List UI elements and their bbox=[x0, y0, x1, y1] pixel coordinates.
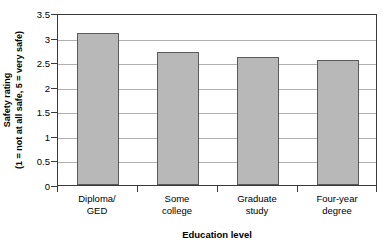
x-axis-tick-marks bbox=[57, 186, 377, 192]
bar-chart-figure: Safety rating (1 = not at all safe, 5 = … bbox=[0, 0, 387, 249]
y-axis-tick-label: 3 bbox=[45, 33, 50, 44]
y-axis-tick-label: 1.5 bbox=[37, 107, 50, 118]
bar bbox=[77, 33, 119, 185]
plot-area bbox=[57, 14, 377, 186]
bar bbox=[317, 60, 359, 185]
x-axis-category-label: Diploma/GED bbox=[57, 193, 137, 217]
x-axis-tick-mark bbox=[217, 186, 218, 192]
y-axis-title: Safety rating (1 = not at all safe, 5 = … bbox=[0, 14, 26, 186]
x-axis-category-labels: Diploma/GEDSomecollegeGraduatestudyFour-… bbox=[57, 193, 377, 227]
x-axis-category-label: Four-yeardegree bbox=[297, 193, 377, 217]
x-axis-category-label: Graduatestudy bbox=[217, 193, 297, 217]
bar bbox=[157, 52, 199, 185]
y-axis-tick-labels: 00.511.522.533.5 bbox=[24, 8, 54, 192]
x-axis-category-label-line: Some bbox=[137, 193, 217, 205]
y-axis-title-line1: Safety rating bbox=[2, 31, 14, 169]
y-axis-tick-label: 0.5 bbox=[37, 156, 50, 167]
x-axis-category-label-line: Graduate bbox=[217, 193, 297, 205]
x-axis-category-label-line: Diploma/ bbox=[57, 193, 137, 205]
y-axis-title-line2: (1 = not at all safe, 5 = very safe) bbox=[13, 31, 25, 169]
y-axis-title-text: Safety rating (1 = not at all safe, 5 = … bbox=[2, 31, 25, 169]
x-axis-category-label-line: GED bbox=[57, 205, 137, 217]
x-axis-tick-mark bbox=[57, 186, 58, 192]
x-axis-tick-mark bbox=[376, 186, 377, 192]
bar-series bbox=[58, 15, 376, 185]
y-axis-tick-label: 2 bbox=[45, 82, 50, 93]
x-axis-title: Education level bbox=[57, 229, 377, 240]
y-axis-tick-label: 1 bbox=[45, 131, 50, 142]
x-axis-category-label-line: Four-year bbox=[297, 193, 377, 205]
x-axis-category-label-line: study bbox=[217, 205, 297, 217]
y-axis-tick-label: 0 bbox=[45, 181, 50, 192]
x-axis-category-label-line: college bbox=[137, 205, 217, 217]
x-axis-category-label-line: degree bbox=[297, 205, 377, 217]
y-axis-tick-label: 2.5 bbox=[37, 58, 50, 69]
x-axis-tick-mark bbox=[297, 186, 298, 192]
bar bbox=[237, 57, 279, 185]
x-axis-tick-mark bbox=[137, 186, 138, 192]
y-axis-tick-label: 3.5 bbox=[37, 9, 50, 20]
x-axis-category-label: Somecollege bbox=[137, 193, 217, 217]
